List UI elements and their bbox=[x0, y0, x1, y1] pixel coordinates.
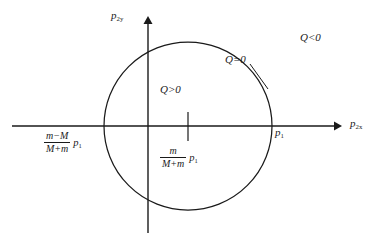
q-negative-label: Q<0 bbox=[300, 32, 321, 43]
y-axis-label-subscript: 2y bbox=[117, 15, 124, 22]
x-axis-label-subscript: 2x bbox=[356, 123, 363, 130]
diagram-canvas bbox=[0, 0, 383, 247]
center-offset-fraction: m M+m bbox=[160, 146, 186, 170]
vertical-axis-arrowhead bbox=[144, 16, 153, 24]
left-intercept-numerator: m−M bbox=[44, 131, 70, 142]
left-intercept-fraction: m−M M+m bbox=[44, 131, 70, 155]
momentum-diagram: p2y p2x Q<0 Q>0 Q=0 p1 m−M M+m p1 m M+m … bbox=[0, 0, 383, 247]
y-axis-label: p2y bbox=[111, 10, 123, 21]
left-intercept-denominator: M+m bbox=[44, 143, 70, 154]
q-positive-label: Q>0 bbox=[160, 84, 181, 95]
p1-right-intercept-label: p1 bbox=[275, 127, 284, 138]
left-intercept-label: m−M M+m p1 bbox=[44, 131, 82, 155]
horizontal-axis-arrowhead bbox=[334, 122, 342, 131]
left-intercept-tail: p1 bbox=[73, 137, 82, 148]
center-offset-label: m M+m p1 bbox=[160, 146, 198, 170]
p1-right-intercept-subscript: 1 bbox=[281, 132, 284, 139]
x-axis-label: p2x bbox=[350, 118, 362, 129]
center-offset-numerator: m bbox=[168, 146, 179, 157]
left-intercept-tail-subscript: 1 bbox=[79, 142, 82, 149]
center-offset-tail: p1 bbox=[189, 152, 198, 163]
q-zero-label: Q=0 bbox=[225, 54, 246, 65]
q-zero-leader-line bbox=[250, 64, 268, 89]
center-offset-denominator: M+m bbox=[160, 158, 186, 169]
center-offset-tail-subscript: 1 bbox=[195, 157, 198, 164]
